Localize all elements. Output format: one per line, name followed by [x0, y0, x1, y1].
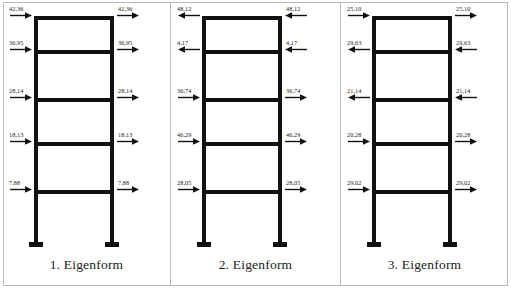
displacement-arrow-right-icon	[10, 12, 32, 19]
beam-storey-2	[372, 142, 452, 146]
node-value-label: 29,02	[347, 179, 361, 186]
displacement-arrow-left-icon	[455, 46, 477, 53]
displacement-arrow-right-icon	[348, 138, 370, 145]
node-value-label: 28,05	[286, 179, 300, 186]
displacement-arrow-right-icon	[455, 186, 477, 193]
beam-storey-3	[34, 98, 114, 102]
node-value-label: 42,36	[118, 5, 132, 12]
beam-storey-3	[202, 98, 282, 102]
panel-caption: 2. Eigenform	[171, 257, 340, 273]
displacement-arrow-left-icon	[455, 94, 477, 101]
panel-1: 42,3642,3636,9536,9528,1428,1418,1318,13…	[3, 2, 170, 286]
node-value-label: 46,29	[286, 131, 300, 138]
displacement-arrow-right-icon	[455, 12, 477, 19]
displacement-arrow-right-icon	[117, 12, 139, 19]
beam-storey-5	[372, 16, 452, 20]
node-value-label: 36,74	[286, 87, 300, 94]
left-base-support	[367, 242, 381, 247]
node-value-label: 42,36	[9, 5, 23, 12]
node-value-label: 36,74	[177, 87, 191, 94]
displacement-arrow-right-icon	[178, 138, 200, 145]
beam-storey-3	[372, 98, 452, 102]
node-value-label: 36,95	[118, 39, 132, 46]
node-value-label: 29,63	[456, 39, 470, 46]
beam-storey-4	[34, 50, 114, 54]
displacement-arrow-right-icon	[117, 46, 139, 53]
mode-shape-figure: 42,3642,3636,9536,9528,1428,1418,1318,13…	[0, 0, 511, 289]
node-value-label: 25,10	[456, 5, 470, 12]
displacement-arrow-right-icon	[10, 186, 32, 193]
left-base-support	[29, 242, 43, 247]
displacement-arrow-right-icon	[285, 186, 307, 193]
node-value-label: 48,12	[177, 5, 191, 12]
beam-storey-2	[34, 142, 114, 146]
right-base-support	[105, 242, 119, 247]
beam-storey-2	[202, 142, 282, 146]
displacement-arrow-right-icon	[455, 138, 477, 145]
node-value-label: 46,29	[177, 131, 191, 138]
beam-storey-4	[202, 50, 282, 54]
beam-storey-5	[202, 16, 282, 20]
node-value-label: 21,14	[456, 87, 470, 94]
left-base-support	[197, 242, 211, 247]
displacement-arrow-left-icon	[285, 46, 307, 53]
displacement-arrow-left-icon	[348, 94, 370, 101]
node-value-label: 36,95	[9, 39, 23, 46]
displacement-arrow-right-icon	[285, 138, 307, 145]
node-value-label: 7,88	[9, 179, 20, 186]
node-value-label: 28,05	[177, 179, 191, 186]
beam-storey-1	[372, 190, 452, 194]
displacement-arrow-left-icon	[348, 46, 370, 53]
frame-drawing: 48,1248,124,174,1736,7436,7446,2946,2928…	[171, 2, 340, 252]
displacement-arrow-right-icon	[285, 94, 307, 101]
displacement-arrow-right-icon	[117, 186, 139, 193]
displacement-arrow-left-icon	[178, 46, 200, 53]
displacement-arrow-right-icon	[10, 46, 32, 53]
beam-storey-5	[34, 16, 114, 20]
node-value-label: 29,02	[456, 179, 470, 186]
beam-storey-1	[202, 190, 282, 194]
node-value-label: 28,14	[9, 87, 23, 94]
node-value-label: 18,13	[9, 131, 23, 138]
node-value-label: 18,13	[118, 131, 132, 138]
panel-2: 48,1248,124,174,1736,7436,7446,2946,2928…	[171, 2, 340, 286]
node-value-label: 20,28	[456, 131, 470, 138]
right-base-support	[273, 242, 287, 247]
node-value-label: 7,88	[118, 179, 129, 186]
node-value-label: 20,28	[347, 131, 361, 138]
node-value-label: 4,17	[286, 39, 297, 46]
frame-drawing: 25,1025,1029,6329,6321,1421,1420,2820,28…	[341, 2, 508, 252]
node-value-label: 28,14	[118, 87, 132, 94]
node-value-label: 21,14	[347, 87, 361, 94]
node-value-label: 25,10	[347, 5, 361, 12]
panel-3: 25,1025,1029,6329,6321,1421,1420,2820,28…	[341, 2, 508, 286]
displacement-arrow-right-icon	[178, 186, 200, 193]
displacement-arrow-left-icon	[178, 12, 200, 19]
node-value-label: 48,12	[286, 5, 300, 12]
node-value-label: 29,63	[347, 39, 361, 46]
displacement-arrow-right-icon	[10, 94, 32, 101]
displacement-arrow-left-icon	[285, 12, 307, 19]
displacement-arrow-right-icon	[348, 12, 370, 19]
panel-caption: 3. Eigenform	[341, 257, 508, 273]
node-value-label: 4,17	[177, 39, 188, 46]
frame-drawing: 42,3642,3636,9536,9528,1428,1418,1318,13…	[3, 2, 170, 252]
beam-storey-4	[372, 50, 452, 54]
displacement-arrow-right-icon	[10, 138, 32, 145]
panel-caption: 1. Eigenform	[3, 257, 170, 273]
displacement-arrow-right-icon	[348, 186, 370, 193]
displacement-arrow-right-icon	[178, 94, 200, 101]
displacement-arrow-right-icon	[117, 94, 139, 101]
displacement-arrow-right-icon	[117, 138, 139, 145]
right-base-support	[443, 242, 457, 247]
beam-storey-1	[34, 190, 114, 194]
